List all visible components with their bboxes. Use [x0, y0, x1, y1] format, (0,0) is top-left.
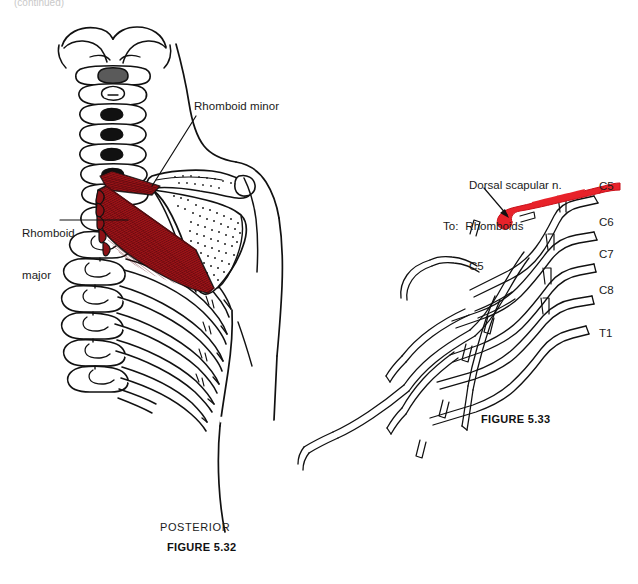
root-label-c7: C7 — [599, 248, 614, 260]
label-to-prefix: To: — [443, 220, 458, 234]
page-canvas: (continued) — [0, 0, 638, 584]
label-dorsal-scapular-line1: Dorsal scapular n. — [469, 179, 562, 193]
root-label-c6: C6 — [599, 216, 614, 228]
root-label-c8: C8 — [599, 284, 614, 296]
root-label-c5: C5 — [599, 180, 614, 192]
label-c5-source: C5 — [469, 260, 562, 274]
root-label-t1: T1 — [599, 327, 612, 339]
figure-5-33-caption: FIGURE 5.33 — [481, 413, 550, 425]
label-dorsal-scapular-nerve: Dorsal scapular n. To: Rhomboids C5 — [443, 152, 562, 301]
label-rhomboids-target: Rhomboids — [465, 220, 523, 234]
